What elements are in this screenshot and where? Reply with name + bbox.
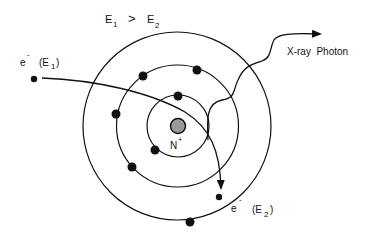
energy-label: (E	[252, 204, 262, 215]
energy-close: )	[270, 204, 273, 215]
electron-middle-2	[193, 66, 202, 75]
energy-relation-title: E 1 > E 2	[105, 11, 160, 30]
electron-trajectory	[42, 78, 221, 188]
electron-symbol: e	[231, 203, 237, 214]
electron-charge: -	[27, 50, 30, 59]
nucleus-symbol: N	[170, 140, 177, 151]
nucleus-charge: +	[178, 136, 182, 143]
energy-label: (E	[39, 57, 49, 68]
electron-middle-4	[128, 163, 137, 172]
incoming-electron	[31, 76, 37, 82]
bremsstrahlung-diagram: E 1 > E 2 e - (E 1 ) e - (E 2 ) N + X-ra…	[0, 0, 370, 235]
incoming-electron-label: e - (E 1 )	[20, 50, 59, 71]
electron-outer-1	[186, 218, 195, 227]
electron-middle-3	[112, 110, 121, 119]
outgoing-electron	[216, 194, 222, 200]
electron-middle-1	[139, 72, 148, 81]
electron-symbol: e	[20, 57, 26, 68]
xray-photon-label: X-ray Photon	[287, 46, 348, 57]
e2-subscript: 2	[155, 21, 160, 30]
electron-inner-2	[151, 146, 160, 155]
greater-than-symbol: >	[128, 11, 136, 26]
nucleus	[171, 119, 186, 134]
electron-charge: -	[239, 195, 242, 204]
electron-inner-1	[174, 92, 183, 101]
energy-close: )	[56, 57, 59, 68]
e1-label: E	[105, 13, 112, 25]
nucleus-label: N +	[170, 136, 182, 151]
energy-subscript: 2	[264, 210, 269, 219]
e1-subscript: 1	[113, 20, 118, 29]
e2-label: E	[147, 13, 154, 25]
